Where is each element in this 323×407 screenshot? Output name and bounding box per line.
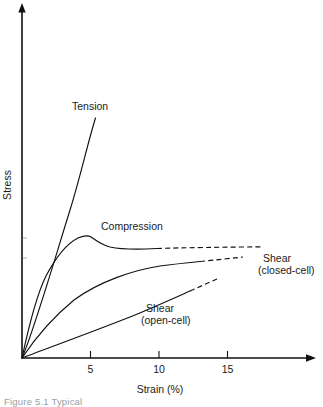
- y-axis-title: Stress: [1, 170, 13, 200]
- label-shear-closed-line1: Shear: [263, 252, 292, 264]
- curve-compression-solid: [22, 236, 157, 358]
- x-axis-title: Strain (%): [137, 383, 184, 395]
- x-tick-marks: [91, 351, 228, 358]
- x-tick-label-10: 10: [153, 363, 165, 375]
- label-compression: Compression: [101, 220, 163, 232]
- figure-caption: Figure 5.1 Typical: [4, 396, 82, 407]
- y-axis-arrow-icon: [18, 3, 25, 13]
- label-shear-closed-line2: (closed-cell): [258, 264, 315, 276]
- label-shear-open-line2: (open-cell): [141, 314, 191, 326]
- label-shear-open-line1: Shear: [146, 302, 175, 314]
- curve-compression-dashed: [157, 247, 262, 249]
- label-tension: Tension: [72, 100, 108, 112]
- curve-shear-closed-dashed: [200, 257, 243, 262]
- x-tick-label-5: 5: [88, 363, 94, 375]
- curve-shear-open-dashed: [190, 279, 217, 291]
- x-axis-arrow-icon: [306, 354, 316, 361]
- curve-tension: [22, 118, 96, 358]
- x-tick-label-15: 15: [222, 363, 234, 375]
